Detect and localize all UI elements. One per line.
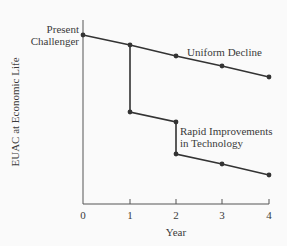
x-axis-label: Year [166,226,187,238]
tick-3: 3 [219,209,225,221]
rapid-improvements-label: Rapid Improvements [180,125,273,137]
series-rapid-improvements [130,45,269,175]
x-ticks [130,199,269,204]
tick-1: 1 [127,209,133,221]
present-label: Present [47,23,79,35]
challenger-label: Challenger [31,35,80,47]
tick-4: 4 [266,209,272,221]
uniform-decline-label: Uniform Decline [187,46,262,58]
euac-chart: 0 1 2 3 4 Year EUAC at Economic Life Pre… [0,0,287,246]
tick-2: 2 [173,209,179,221]
in-technology-label: in Technology [180,137,243,149]
x-tick-labels: 0 1 2 3 4 [80,209,272,221]
tick-0: 0 [80,209,86,221]
y-axis-label: EUAC at Economic Life [9,57,21,166]
